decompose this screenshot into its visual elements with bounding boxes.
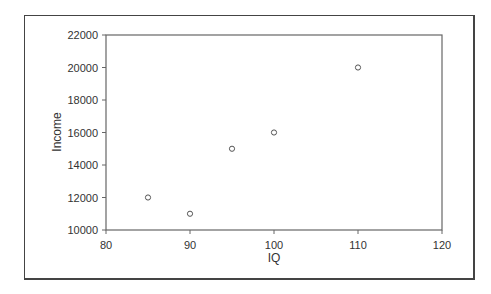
data-point-marker	[271, 130, 276, 135]
y-tick-label: 14000	[67, 159, 98, 171]
y-tick-label: 20000	[67, 62, 98, 74]
x-axis-label: IQ	[268, 251, 281, 265]
data-point-marker	[145, 195, 150, 200]
y-tick-label: 16000	[67, 127, 98, 139]
x-tick-label: 100	[265, 239, 283, 251]
y-tick-label: 10000	[67, 224, 98, 236]
y-axis-label: Income	[50, 112, 64, 152]
y-tick-label: 12000	[67, 192, 98, 204]
data-points	[145, 65, 360, 216]
x-tick-label: 80	[100, 239, 112, 251]
plot-axes: 1000012000140001600018000200002200080901…	[67, 29, 451, 251]
scatter-plot: 1000012000140001600018000200002200080901…	[0, 0, 491, 294]
data-point-marker	[229, 146, 234, 151]
data-point-marker	[355, 65, 360, 70]
x-tick-label: 90	[184, 239, 196, 251]
y-tick-label: 18000	[67, 94, 98, 106]
plot-area	[106, 35, 442, 230]
x-tick-label: 110	[349, 239, 367, 251]
x-tick-label: 120	[433, 239, 451, 251]
data-point-marker	[187, 211, 192, 216]
y-tick-label: 22000	[67, 29, 98, 41]
